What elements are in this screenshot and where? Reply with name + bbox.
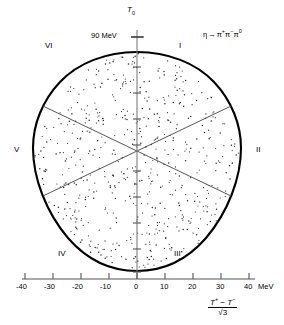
x-tick-label-40: 40: [244, 283, 252, 291]
dalitz-plot-figure: T0 90 MeV η→π+π−π0 I II III IV V VI -40 …: [0, 0, 284, 325]
plot-canvas: [0, 0, 284, 325]
sector-label-i: I: [179, 42, 181, 50]
x-axis-label-denominator: √3: [208, 307, 237, 317]
x-tick-label-10: 10: [160, 283, 168, 291]
sector-label-vi: VI: [45, 42, 53, 50]
x-axis-label-numerator: T+ − T−: [208, 296, 237, 307]
sector-label-iv: IV: [58, 250, 66, 258]
x-axis-unit: MeV: [258, 283, 273, 291]
horizontal-axis: [22, 273, 255, 279]
sector-label-ii: II: [256, 146, 260, 154]
x-tick-label-30: 30: [216, 283, 224, 291]
x-tick-label-neg40: -40: [16, 283, 27, 291]
x-axis-label: T+ − T− √3: [208, 296, 237, 317]
sector-label-v: V: [14, 146, 19, 154]
sector-label-iii: III: [174, 250, 181, 258]
x-tick-label-neg10: -10: [100, 283, 111, 291]
horizontal-axis-ticks: [25, 273, 249, 279]
vertical-axis-tick-label: 90 MeV: [91, 32, 117, 40]
x-tick-label-zero: 0: [134, 283, 138, 291]
reaction-label: η→π+π−π0: [203, 29, 242, 38]
x-tick-label-neg20: -20: [72, 283, 83, 291]
x-tick-label-neg30: -30: [44, 283, 55, 291]
vertical-axis-symbol: T0: [127, 6, 135, 16]
x-tick-label-20: 20: [188, 283, 196, 291]
